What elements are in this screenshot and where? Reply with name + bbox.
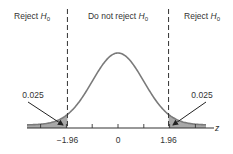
normal-curve xyxy=(27,53,206,125)
region-label-do-not-reject: Do not reject H0 xyxy=(88,11,149,22)
arrow-right xyxy=(173,102,206,125)
region-label-right-reject: Reject H0 xyxy=(184,11,221,22)
normal-distribution-chart: Reject H0 Do not reject H0 Reject H0 0.0… xyxy=(0,0,233,154)
arrow-left xyxy=(28,102,63,125)
tail-shade-left xyxy=(27,114,67,128)
tail-shade-right xyxy=(169,114,206,128)
tick-label-neg-1-96: −1.96 xyxy=(57,135,79,145)
tail-area-label-right: 0.025 xyxy=(191,90,213,100)
region-label-left-reject: Reject H0 xyxy=(14,11,51,22)
tick-label-0: 0 xyxy=(116,135,121,145)
tick-label-1-96: 1.96 xyxy=(160,135,177,145)
tail-area-label-left: 0.025 xyxy=(22,90,44,100)
x-axis-label: z xyxy=(214,123,220,133)
